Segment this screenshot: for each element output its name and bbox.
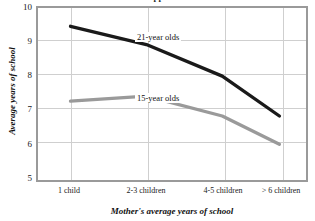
y-tick-5: 5 [12, 174, 32, 183]
series-annotation-15-year-olds: 15-year olds [135, 93, 181, 103]
x-tick-2-3-children: 2-3 children [115, 186, 177, 195]
chart-figure: Cropped chart title 10 9 8 7 6 5 Average… [0, 0, 315, 221]
y-axis-title: Average years of school [7, 16, 17, 166]
x-tick-1-child: 1 child [39, 186, 99, 195]
x-tick-6-children: > 6 children [250, 186, 312, 195]
x-axis-title: Mother's average years of school [36, 206, 308, 216]
x-tick-4-5-children: 4-5 children [190, 186, 256, 195]
plot-area: 21-year olds 15-year olds [36, 6, 308, 182]
y-tick-10: 10 [12, 3, 32, 12]
series-annotation-21-year-olds: 21-year olds [135, 32, 181, 42]
line-15-year-olds [71, 96, 280, 144]
